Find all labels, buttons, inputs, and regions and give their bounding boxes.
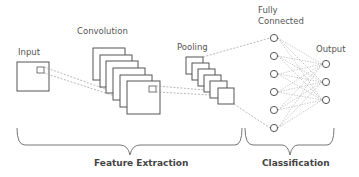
classification-label: Classification	[262, 158, 330, 168]
output-layer	[322, 60, 329, 103]
fully-connected-label-line2: Connected	[258, 17, 304, 27]
pooling-layer	[186, 57, 234, 104]
fc-node	[270, 106, 277, 113]
fc-node	[270, 124, 277, 131]
fc-node	[270, 52, 277, 59]
output-node	[322, 96, 329, 103]
fc-node	[270, 70, 277, 77]
convolution-layer	[93, 48, 160, 114]
fully-connected-layer	[270, 34, 277, 131]
output-node	[322, 78, 329, 85]
classification-brace	[245, 128, 334, 155]
input-layer	[17, 62, 49, 91]
output-node	[322, 60, 329, 67]
pooling-label: Pooling	[177, 43, 208, 53]
input-receptive-field	[37, 67, 44, 73]
fc-node	[270, 34, 277, 41]
cnn-diagram	[0, 0, 359, 177]
input-label: Input	[18, 48, 40, 58]
fc-node	[270, 88, 277, 95]
output-label: Output	[316, 45, 346, 55]
conv-receptive-field	[149, 86, 156, 92]
convolution-label: Convolution	[77, 27, 128, 37]
feature-extraction-label: Feature Extraction	[94, 158, 188, 168]
feature-extraction-brace	[17, 128, 242, 155]
fully-connected-label-line1: Fully	[258, 6, 278, 16]
